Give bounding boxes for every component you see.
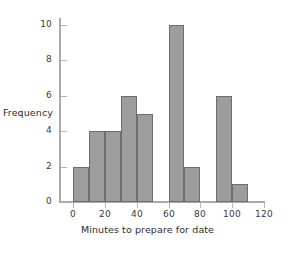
histogram-figure: 0246810 020406080100120 Frequency Minute… bbox=[0, 0, 295, 259]
y-axis-line bbox=[59, 18, 61, 203]
histogram-bar bbox=[232, 184, 248, 202]
y-tick-label: 0 bbox=[12, 196, 52, 206]
y-tick-label: 4 bbox=[12, 125, 52, 135]
x-tick-label: 0 bbox=[56, 209, 90, 219]
histogram-bar bbox=[89, 131, 105, 202]
y-tick-mark bbox=[61, 60, 67, 61]
x-tick-mark bbox=[232, 203, 233, 208]
x-tick-label: 60 bbox=[152, 209, 186, 219]
y-tick-label: 2 bbox=[12, 161, 52, 171]
y-tick-mark bbox=[61, 202, 67, 203]
histogram-bar bbox=[105, 131, 121, 202]
y-axis-title: Frequency bbox=[3, 107, 53, 118]
x-tick-label: 80 bbox=[183, 209, 217, 219]
plot-area bbox=[73, 18, 264, 202]
x-tick-mark bbox=[105, 203, 106, 208]
x-tick-label: 40 bbox=[120, 209, 154, 219]
y-tick-label: 8 bbox=[12, 54, 52, 64]
y-tick-label: 6 bbox=[12, 90, 52, 100]
histogram-bar bbox=[169, 25, 185, 202]
y-tick-mark bbox=[61, 131, 67, 132]
x-tick-mark bbox=[137, 203, 138, 208]
histogram-bar bbox=[184, 167, 200, 202]
x-axis-title: Minutes to prepare for date bbox=[0, 224, 295, 235]
histogram-bar bbox=[216, 96, 232, 202]
y-tick-mark bbox=[61, 25, 67, 26]
histogram-bar bbox=[73, 167, 89, 202]
x-tick-mark bbox=[264, 203, 265, 208]
y-tick-label: 10 bbox=[12, 19, 52, 29]
histogram-bar bbox=[121, 96, 137, 202]
x-tick-mark bbox=[200, 203, 201, 208]
x-tick-mark bbox=[73, 203, 74, 208]
x-tick-label: 100 bbox=[215, 209, 249, 219]
x-tick-label: 20 bbox=[88, 209, 122, 219]
y-tick-mark bbox=[61, 167, 67, 168]
x-tick-mark bbox=[169, 203, 170, 208]
histogram-bar bbox=[137, 114, 153, 203]
x-tick-label: 120 bbox=[247, 209, 281, 219]
y-tick-mark bbox=[61, 96, 67, 97]
